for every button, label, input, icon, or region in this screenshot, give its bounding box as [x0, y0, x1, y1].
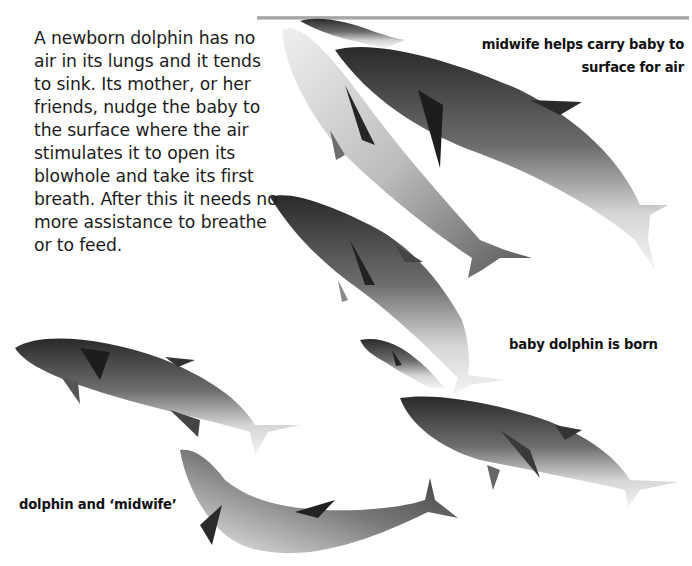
intro-paragraph: A newborn dolphin has no air in its lung…: [34, 27, 279, 257]
caption-midwife-carry: midwife helps carry baby to surface for …: [454, 33, 684, 79]
dolphin-adult-lower-left: [15, 339, 300, 455]
dolphin-adult-middle: [270, 195, 505, 395]
caption-baby-born: baby dolphin is born: [509, 337, 658, 352]
dolphin-adult-bottom: [180, 450, 458, 553]
caption-dolphin-and-midwife: dolphin and ‘midwife’: [19, 497, 177, 512]
caption-midwife-carry-line2: surface for air: [454, 56, 684, 79]
caption-midwife-carry-line1: midwife helps carry baby to: [454, 33, 684, 56]
dolphin-adult-lower-right: [400, 396, 678, 508]
